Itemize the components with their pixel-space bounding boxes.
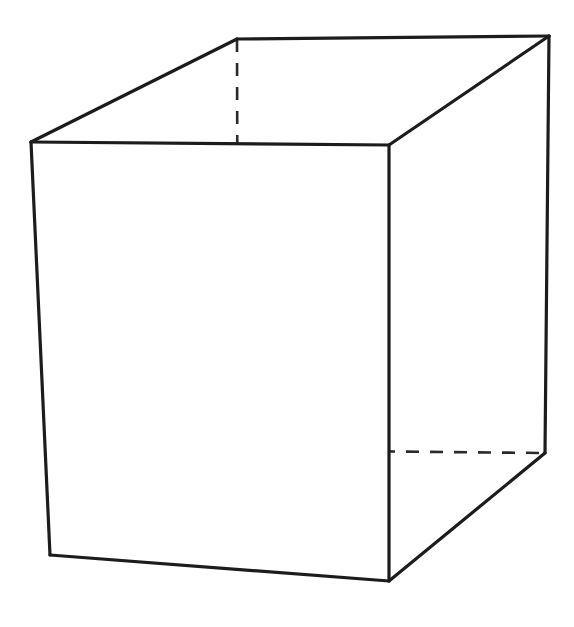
figure-canvas [0,0,574,627]
cube-line-drawing [0,0,574,627]
cube-face-front [31,142,389,581]
